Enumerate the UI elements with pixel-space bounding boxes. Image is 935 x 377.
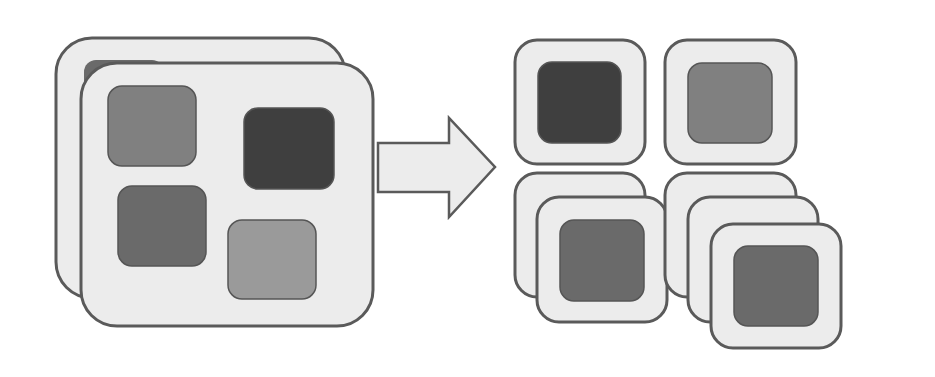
arrow-right-icon bbox=[378, 118, 495, 217]
source-group bbox=[56, 38, 373, 326]
item-a-square bbox=[108, 86, 196, 166]
target-groups bbox=[515, 40, 841, 348]
item-c-square bbox=[118, 186, 206, 266]
target-bottom-left bbox=[515, 173, 667, 322]
target-top-right bbox=[665, 40, 796, 164]
item-b-square bbox=[244, 108, 334, 189]
item-d-square bbox=[228, 220, 316, 299]
transform-arrow bbox=[378, 118, 495, 217]
target-bottom-right bbox=[665, 173, 841, 348]
item-square bbox=[734, 246, 818, 326]
target-top-left bbox=[515, 40, 645, 164]
item-square bbox=[538, 62, 621, 143]
diagram-canvas bbox=[0, 0, 935, 377]
item-square bbox=[560, 220, 644, 301]
item-square bbox=[688, 63, 772, 143]
